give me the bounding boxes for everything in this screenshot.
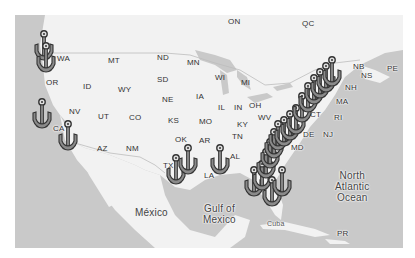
anchor-icon[interactable] — [57, 119, 79, 151]
anchor-icon[interactable] — [177, 143, 199, 175]
label-il: IL — [218, 103, 225, 112]
label-ma: MA — [336, 97, 348, 106]
label-ia: IA — [196, 92, 204, 101]
label-gulf-of-mexico: Gulf of Mexico — [203, 203, 236, 225]
label-ks: KS — [168, 116, 179, 125]
atlantic-line-1: North — [335, 170, 369, 181]
label-oh: OH — [249, 101, 261, 110]
label-mo: MO — [199, 117, 212, 126]
atlantic-line-2: Atlantic — [335, 181, 369, 192]
anchor-icon[interactable] — [321, 55, 343, 87]
label-in: IN — [234, 103, 242, 112]
map-canvas[interactable]: ON QC NB NS PE WA OR CA ID NV MT WY UT C… — [15, 15, 403, 248]
label-north-atlantic-ocean: North Atlantic Ocean — [335, 170, 369, 203]
label-id: ID — [83, 82, 91, 91]
label-ne: NE — [162, 95, 174, 104]
label-wy: WY — [118, 85, 131, 94]
label-pr: PR — [337, 229, 349, 238]
label-co: CO — [129, 113, 141, 122]
atlantic-line-3: Ocean — [335, 192, 369, 203]
anchor-icon[interactable] — [31, 97, 53, 129]
label-nv: NV — [69, 107, 81, 116]
label-nh: NH — [345, 83, 357, 92]
gulf-line-1: Gulf of — [203, 203, 236, 214]
label-tn: TN — [232, 132, 243, 141]
label-al: AL — [230, 152, 240, 161]
label-nb: NB — [353, 62, 365, 71]
label-mn: MN — [187, 58, 200, 67]
label-pe: PE — [387, 64, 398, 73]
label-mi: MI — [241, 78, 250, 87]
label-az: AZ — [97, 144, 108, 153]
label-on: ON — [228, 17, 240, 26]
label-ri: RI — [334, 113, 342, 122]
anchor-icon[interactable] — [35, 41, 57, 73]
label-mt: MT — [108, 56, 120, 65]
label-ky: KY — [237, 120, 248, 129]
label-wi: WI — [215, 73, 225, 82]
label-wa: WA — [57, 54, 70, 63]
label-or: OR — [46, 78, 58, 87]
label-qc: QC — [302, 19, 314, 28]
label-ut: UT — [98, 112, 109, 121]
gulf-line-2: Mexico — [203, 214, 236, 225]
label-cuba: Cuba — [267, 220, 285, 227]
label-nm: NM — [126, 144, 139, 153]
label-sd: SD — [157, 75, 169, 84]
label-nj: NJ — [323, 130, 333, 139]
label-mexico: México — [135, 207, 168, 218]
label-ns: NS — [361, 71, 373, 80]
label-nd: ND — [157, 53, 169, 62]
anchor-icon[interactable] — [271, 165, 293, 197]
anchor-icon[interactable] — [209, 143, 231, 175]
